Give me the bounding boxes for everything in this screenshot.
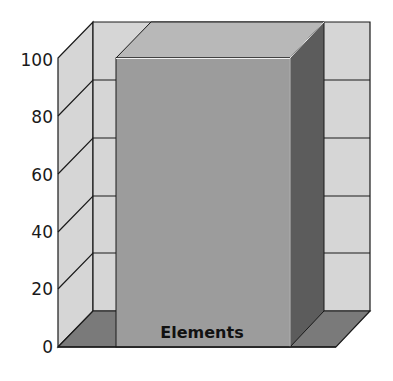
y-tick-40: 40 xyxy=(31,222,53,242)
y-tick-80: 80 xyxy=(31,107,53,127)
y-tick-20: 20 xyxy=(31,279,53,299)
y-tick-60: 60 xyxy=(31,165,53,185)
y-tick-0: 0 xyxy=(42,337,53,357)
left-wall xyxy=(58,22,93,347)
bar-elements xyxy=(116,22,324,347)
bar-side-face xyxy=(290,22,324,347)
bar-chart-3d: 100 80 60 40 20 0 Elements xyxy=(0,0,393,381)
y-tick-100: 100 xyxy=(21,50,53,70)
y-axis-ticks: 100 80 60 40 20 0 xyxy=(21,50,53,357)
bar-front-face xyxy=(116,58,290,347)
bar-top-face xyxy=(116,22,324,58)
category-label: Elements xyxy=(160,323,243,342)
